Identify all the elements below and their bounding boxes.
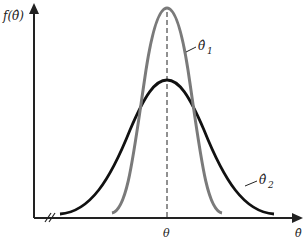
curve2-pointer <box>245 181 257 186</box>
x-axis-arrow-icon <box>292 213 303 223</box>
curve1-subscript: 1 <box>207 46 213 56</box>
x-axis-label: θ̂ <box>295 227 302 240</box>
center-tick-label: θ <box>163 227 170 240</box>
y-axis-label: f(θ̂) <box>2 9 24 23</box>
curve1-label: θ̂ <box>198 39 206 53</box>
sampling-distribution-diagram: f(θ̂) θ̂ θ θ̂ 1 θ̂ 2 <box>0 0 307 242</box>
curve1-pointer <box>186 47 196 52</box>
y-axis-arrow-icon <box>29 3 39 14</box>
curve2-subscript: 2 <box>267 180 274 190</box>
curve2-label: θ̂ <box>259 173 267 187</box>
